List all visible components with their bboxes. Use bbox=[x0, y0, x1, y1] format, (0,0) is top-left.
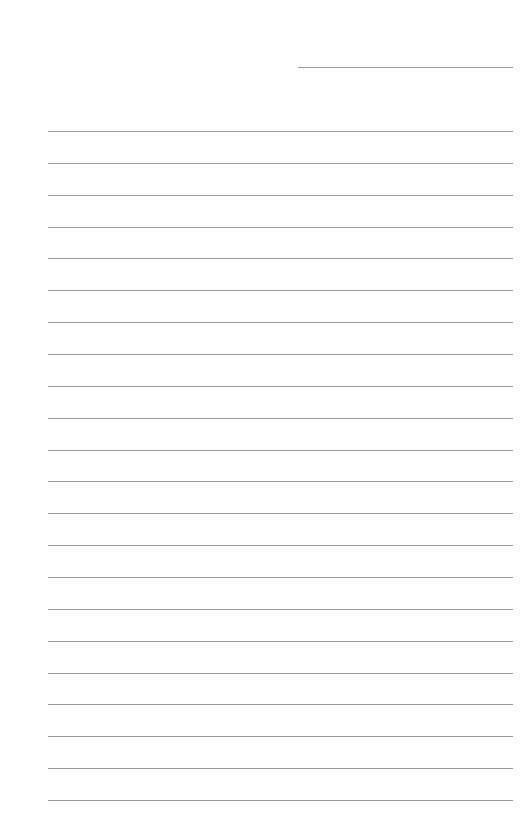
ruled-line bbox=[48, 545, 513, 546]
ruled-line bbox=[48, 736, 513, 737]
ruled-line bbox=[48, 131, 513, 132]
ruled-line bbox=[48, 195, 513, 196]
ruled-line bbox=[48, 227, 513, 228]
header-date-line bbox=[298, 67, 513, 68]
ruled-line bbox=[48, 609, 513, 610]
ruled-line bbox=[48, 163, 513, 164]
ruled-line bbox=[48, 481, 513, 482]
lined-paper-page bbox=[0, 0, 527, 834]
ruled-line bbox=[48, 290, 513, 291]
ruled-line bbox=[48, 258, 513, 259]
ruled-line bbox=[48, 513, 513, 514]
ruled-line bbox=[48, 418, 513, 419]
ruled-line bbox=[48, 450, 513, 451]
ruled-line bbox=[48, 354, 513, 355]
ruled-line bbox=[48, 577, 513, 578]
ruled-line bbox=[48, 641, 513, 642]
ruled-line bbox=[48, 386, 513, 387]
ruled-line bbox=[48, 322, 513, 323]
ruled-line bbox=[48, 673, 513, 674]
ruled-line bbox=[48, 704, 513, 705]
ruled-line bbox=[48, 768, 513, 769]
ruled-line bbox=[48, 800, 513, 801]
